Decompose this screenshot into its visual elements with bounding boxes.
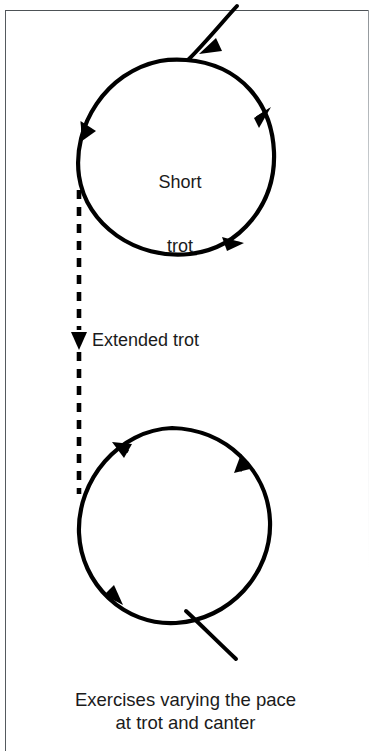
upper-circle-arrow-left-icon — [81, 121, 97, 141]
figure-caption-line2: at trot and canter — [0, 711, 371, 734]
short-trot-label-line1: Short — [132, 172, 228, 193]
extended-trot-label: Extended trot — [92, 330, 199, 351]
riding-pattern-diagram — [0, 0, 371, 751]
extended-trot-group — [71, 190, 87, 494]
figure-caption: Exercises varying the pace at trot and c… — [0, 688, 371, 734]
figure-caption-line1: Exercises varying the pace — [0, 688, 371, 711]
exit-tangent-path — [186, 611, 236, 659]
short-trot-label-line2: trot — [132, 236, 228, 257]
entry-tangent-group — [188, 6, 237, 60]
short-trot-label: Short trot — [132, 130, 228, 300]
exit-tangent-group — [186, 611, 236, 659]
lower-circle-group — [79, 428, 270, 623]
extended-trot-arrow-icon — [71, 332, 87, 350]
figure-page: Short trot Extended trot Exercises varyi… — [0, 0, 371, 751]
